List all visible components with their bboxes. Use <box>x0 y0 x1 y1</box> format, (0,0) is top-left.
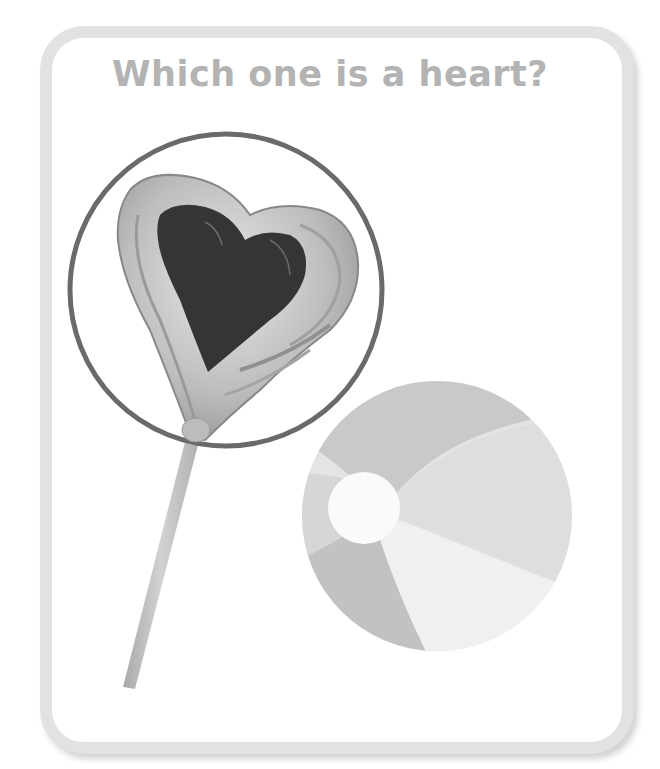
lollipop-option[interactable] <box>70 134 382 689</box>
beach-ball-icon <box>290 370 600 670</box>
heart-icon <box>118 175 358 442</box>
beach-ball-option[interactable] <box>290 370 600 670</box>
lollipop-stick <box>123 438 199 689</box>
